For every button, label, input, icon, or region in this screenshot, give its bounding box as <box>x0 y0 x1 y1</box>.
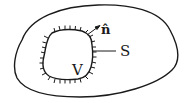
volume-label: V <box>72 63 83 78</box>
normal-label: n̂ <box>101 23 110 36</box>
diagram-drawing <box>0 0 185 103</box>
normal-arrow <box>87 26 100 36</box>
surface-s <box>43 30 93 80</box>
diagram-canvas: n̂ S V <box>0 0 185 103</box>
surface-label: S <box>120 44 130 59</box>
